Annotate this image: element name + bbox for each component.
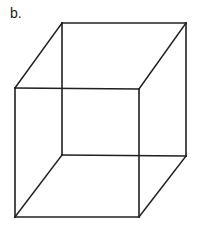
cube-edge-connector-bottom-right [139,156,186,217]
cube-edge-front-top [15,88,139,89]
cube-edge-connector-top-left [15,23,62,88]
figure-panel: b. [0,0,197,230]
wireframe-cube-drawing [0,0,197,230]
cube-edge-group [15,23,186,217]
cube-edge-connector-top-right [139,23,186,89]
cube-edge-back-bottom [62,155,186,156]
cube-edge-connector-bottom-left [15,155,62,217]
